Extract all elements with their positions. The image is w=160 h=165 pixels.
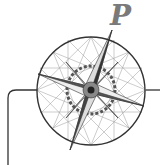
compass-rose-logo: P [0,0,160,165]
left-connector-line [8,90,37,165]
compass-letter-p: P [110,2,131,30]
center-dot [88,87,95,94]
compass-rose-icon [0,0,160,165]
